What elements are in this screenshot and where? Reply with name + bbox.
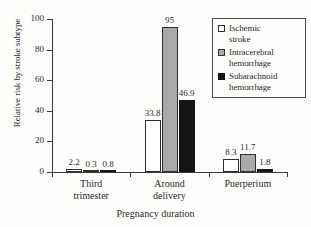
legend-item: Ischemicstroke <box>218 23 301 45</box>
x-axis-category-label: Puerperium <box>202 178 294 190</box>
x-axis-tick <box>130 172 131 177</box>
legend-item-label: Ischemicstroke <box>229 23 261 45</box>
black-square-icon <box>218 73 225 80</box>
bar-value-label: 1.8 <box>251 158 279 167</box>
legend-item: Intracerebralhemorrhage <box>218 47 301 69</box>
x-axis-tick <box>52 172 53 177</box>
legend: Ischemicstroke Intracerebralhemorrhage S… <box>212 18 306 98</box>
x-axis-tick <box>287 172 288 177</box>
white-square-icon <box>218 25 225 32</box>
bar <box>162 27 178 172</box>
y-axis-title: Relative risk by stroke subtype <box>12 0 22 148</box>
bar <box>145 120 161 172</box>
bar <box>83 170 99 172</box>
legend-item: Subarachnoidhemorrhage <box>218 71 301 93</box>
bar <box>257 169 273 172</box>
x-axis-line <box>52 172 288 173</box>
bar-value-label: 0.8 <box>94 160 122 169</box>
gray-square-icon <box>218 49 225 56</box>
bar <box>179 100 195 172</box>
bar-value-label: 11.7 <box>234 143 262 152</box>
x-axis-title: Pregnancy duration <box>0 208 311 219</box>
bar-chart-figure: Relative risk by stroke subtype 02040608… <box>0 0 311 227</box>
bar <box>100 170 116 172</box>
legend-item-label: Intracerebralhemorrhage <box>229 47 274 69</box>
bar <box>223 159 239 172</box>
bar-value-label: 95 <box>156 16 184 25</box>
x-axis-tick <box>209 172 210 177</box>
legend-item-label: Subarachnoidhemorrhage <box>229 71 277 93</box>
bar-value-label: 46.9 <box>173 89 201 98</box>
bar <box>66 169 82 172</box>
